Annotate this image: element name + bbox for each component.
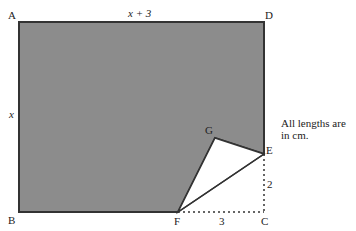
dim-top: x + 3 [127,7,152,19]
units-note: All lengths are in cm. [281,117,353,141]
label-F: F [174,215,180,227]
label-D: D [265,9,273,21]
label-A: A [8,9,16,21]
label-C: C [261,215,268,227]
dim-ec: 2 [267,178,273,190]
label-B: B [8,214,15,226]
geometry-diagram: A D B F C E G x + 3 x 2 3 [0,0,356,231]
label-G: G [205,124,213,136]
shaded-region [19,22,264,212]
dim-left: x [8,108,14,120]
dim-fc: 3 [219,215,225,227]
label-E: E [266,144,273,156]
